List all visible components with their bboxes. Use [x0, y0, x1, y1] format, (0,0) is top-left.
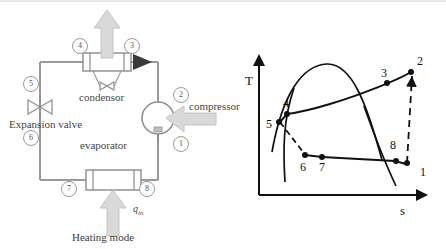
dot-4: [284, 111, 290, 117]
dot-5: [276, 119, 282, 125]
ts-label-1: 1: [420, 166, 426, 178]
ts-label-7: 7: [319, 161, 325, 173]
ts-label-6: 6: [300, 161, 306, 173]
ts-label-8: 8: [390, 139, 396, 151]
figure-root: 3 4 5 6 7 8 2 1 condensor compressor Exp…: [0, 0, 446, 249]
ts-diagram-layer: [0, 0, 446, 249]
dot-8: [393, 158, 399, 164]
dot-1: [404, 160, 410, 166]
process-2-3-4: [287, 72, 411, 114]
dot-6: [302, 152, 308, 158]
dot-3: [384, 80, 390, 86]
y-axis-label: T: [245, 74, 253, 87]
process-1-to-2: [407, 76, 412, 163]
ts-label-3: 3: [381, 67, 387, 79]
dot-2: [408, 69, 414, 75]
ts-label-2: 2: [417, 55, 423, 67]
ts-label-5: 5: [266, 118, 272, 130]
x-axis-label: s: [400, 204, 405, 217]
ts-label-4: 4: [283, 97, 289, 109]
